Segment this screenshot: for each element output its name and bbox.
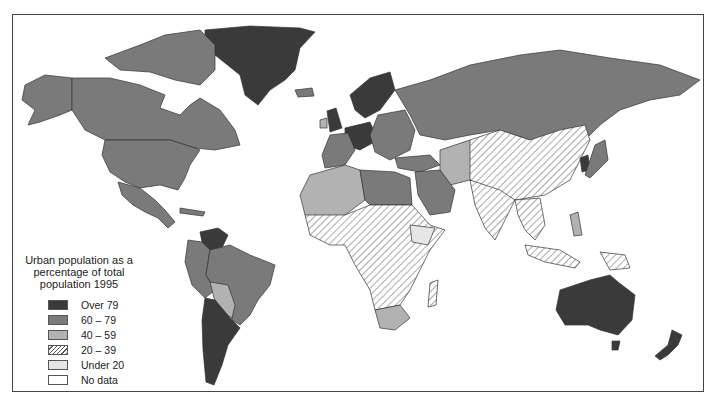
region-madagascar <box>428 280 438 307</box>
legend-swatch <box>48 300 68 310</box>
region-philippines <box>570 212 582 236</box>
region-tasmania <box>612 341 620 350</box>
region-libya-egypt <box>360 170 412 205</box>
region-alaska <box>22 75 72 125</box>
region-uk <box>327 108 342 132</box>
legend-swatch <box>48 330 68 340</box>
legend-label: 40 – 59 <box>81 329 116 341</box>
region-caribbean <box>180 208 205 216</box>
region-canada <box>72 78 240 150</box>
legend-item-no-data: No data <box>24 372 144 387</box>
region-russia <box>395 50 700 140</box>
legend-item-40-59: 40 – 59 <box>24 327 144 342</box>
legend-label: No data <box>81 374 118 386</box>
region-sub-saharan-africa <box>305 205 445 310</box>
region-south-africa <box>375 305 410 330</box>
legend-title: Urban population as a percentage of tota… <box>24 254 134 290</box>
legend-label: 20 – 39 <box>81 344 116 356</box>
region-new-guinea <box>600 252 630 270</box>
legend-item-20-39: 20 – 39 <box>24 342 144 357</box>
legend-item-under-20: Under 20 <box>24 357 144 372</box>
legend-swatch <box>48 375 68 385</box>
region-france-spain <box>322 133 355 168</box>
region-se-asia <box>515 198 545 240</box>
legend-label: Over 79 <box>81 299 118 311</box>
region-iceland <box>295 88 314 97</box>
region-eastern-europe <box>370 110 415 160</box>
legend-label: 60 – 79 <box>81 314 116 326</box>
legend-item-over-79: Over 79 <box>24 297 144 312</box>
legend-title-line: Urban population as a <box>24 254 134 266</box>
legend-title-line: population 1995 <box>24 278 134 290</box>
legend-items: Over 79 60 – 79 40 – 59 20 – 39 Under 20… <box>24 297 144 387</box>
region-usa <box>102 140 200 190</box>
map-legend: Urban population as a percentage of tota… <box>24 254 144 387</box>
legend-swatch <box>48 315 68 325</box>
region-arctic-islands <box>105 30 215 85</box>
region-australia <box>556 275 635 335</box>
legend-swatch <box>48 360 68 370</box>
region-mexico <box>118 182 175 228</box>
legend-title-line: percentage of total <box>24 266 134 278</box>
legend-item-60-79: 60 – 79 <box>24 312 144 327</box>
region-indonesia <box>525 245 580 268</box>
region-scandinavia <box>350 72 395 118</box>
legend-label: Under 20 <box>81 359 124 371</box>
legend-swatch <box>48 345 68 355</box>
region-turkey <box>395 155 440 172</box>
region-ireland <box>320 118 327 128</box>
region-new-zealand <box>655 330 682 360</box>
